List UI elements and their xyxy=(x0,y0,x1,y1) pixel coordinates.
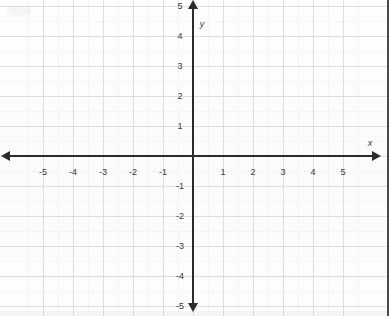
x-tick-label: -5 xyxy=(39,168,47,177)
x-tick-label: -3 xyxy=(99,168,107,177)
y-tick-label: 2 xyxy=(177,92,182,101)
x-tick-label: 3 xyxy=(280,168,285,177)
x-tick-label: -1 xyxy=(159,168,167,177)
x-tick-label: 1 xyxy=(220,168,225,177)
x-tick-label: -2 xyxy=(129,168,137,177)
x-axis-label: x xyxy=(368,139,373,148)
x-tick-label: 2 xyxy=(250,168,255,177)
y-tick-label: -1 xyxy=(176,182,184,191)
y-tick-label: -2 xyxy=(176,212,184,221)
y-tick-label: 5 xyxy=(177,2,182,11)
coordinate-plane-figure: x y -5-4-3-2-11234554321-1-2-3-4-5 xyxy=(0,0,389,316)
y-tick-label: 3 xyxy=(177,62,182,71)
y-tick-label: -3 xyxy=(176,242,184,251)
y-tick-label: 4 xyxy=(177,32,182,41)
y-tick-label: -5 xyxy=(176,302,184,311)
y-axis-label: y xyxy=(200,20,205,29)
label-layer: x y -5-4-3-2-11234554321-1-2-3-4-5 xyxy=(0,0,389,316)
y-tick-label: -4 xyxy=(176,272,184,281)
y-tick-label: 1 xyxy=(177,122,182,131)
x-tick-label: -4 xyxy=(69,168,77,177)
x-tick-label: 4 xyxy=(310,168,315,177)
x-tick-label: 5 xyxy=(340,168,345,177)
